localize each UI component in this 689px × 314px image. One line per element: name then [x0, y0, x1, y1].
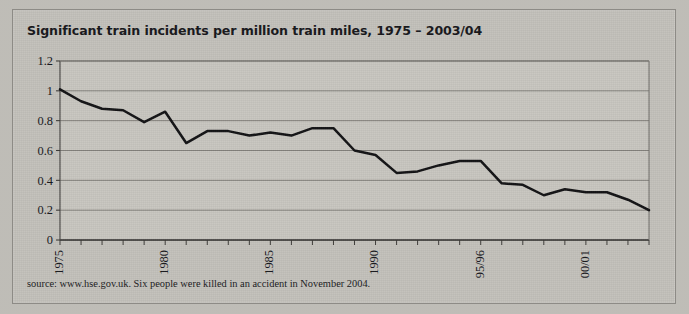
svg-text:95/96: 95/96	[473, 250, 487, 278]
x-tick-label: 1980	[157, 250, 171, 275]
chart-plot-area: 00.20.40.60.811.2197519801985199095/9600…	[13, 10, 675, 303]
svg-text:00/01: 00/01	[578, 250, 592, 278]
y-tick-label: 0.6	[38, 144, 54, 158]
x-tick-label: 1985	[262, 250, 276, 275]
screenshot-page: Significant train incidents per million …	[0, 0, 689, 314]
x-tick-label: 00/01	[578, 250, 592, 278]
y-tick-label: 0.4	[38, 174, 54, 188]
y-tick-label: 0.8	[38, 114, 54, 128]
y-tick-label: 0.2	[38, 203, 54, 217]
y-tick-label: 0	[47, 233, 53, 247]
svg-text:1980: 1980	[157, 250, 171, 275]
x-tick-label: 1990	[367, 250, 381, 275]
y-tick-label: 1.2	[38, 54, 54, 68]
svg-text:1985: 1985	[262, 250, 276, 275]
y-tick-label: 1	[47, 84, 53, 98]
x-tick-label: 95/96	[473, 250, 487, 278]
line-chart: 00.20.40.60.811.2197519801985199095/9600…	[13, 10, 675, 303]
svg-text:1975: 1975	[52, 250, 66, 275]
source-note: source: www.hse.gov.uk. Six people were …	[27, 278, 370, 289]
svg-text:1990: 1990	[367, 250, 381, 275]
x-tick-label: 1975	[52, 250, 66, 275]
chart-card: Significant train incidents per million …	[12, 9, 676, 304]
